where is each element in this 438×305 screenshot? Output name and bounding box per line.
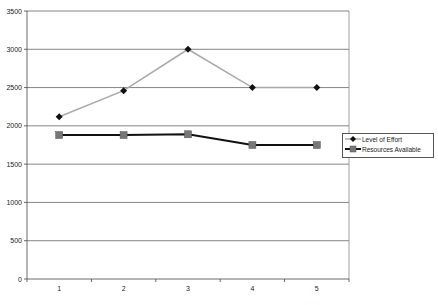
y-tick-label: 0 [18,276,22,283]
legend-label: Resources Available [362,146,421,153]
data-point [249,84,256,91]
series-line [59,49,317,116]
x-tick-label: 5 [315,285,319,292]
data-point [56,132,63,139]
x-tick-label: 1 [57,285,61,292]
y-tick-label: 3500 [6,8,22,15]
data-point [185,131,192,138]
data-point [249,142,256,149]
legend-item-level-of-effort: Level of Effort [343,134,433,144]
y-tick-label: 2500 [6,84,22,91]
y-tick-label: 1000 [6,199,22,206]
diamond-marker-icon [345,134,361,144]
x-tick-label: 3 [186,285,190,292]
data-point [313,142,320,149]
chart-legend: Level of Effort Resources Available [342,133,434,158]
data-point [313,84,320,91]
legend-item-resources-available: Resources Available [343,144,433,154]
data-point [56,113,63,120]
y-tick-label: 2000 [6,122,22,129]
y-tick-label: 3000 [6,46,22,53]
data-point [120,132,127,139]
square-marker-icon [345,144,361,154]
y-tick-label: 500 [10,237,22,244]
y-tick-label: 1500 [6,161,22,168]
legend-label: Level of Effort [362,136,402,143]
x-tick-label: 2 [122,285,126,292]
x-tick-label: 4 [250,285,254,292]
